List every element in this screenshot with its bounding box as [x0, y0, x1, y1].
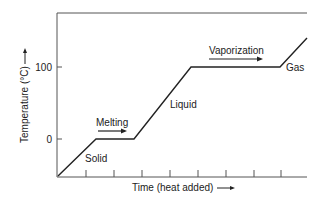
vaporization-arrow-icon	[209, 57, 263, 62]
melting-arrow-icon	[98, 129, 127, 134]
ytick-label-100: 100	[35, 62, 52, 73]
x-axis-label: Time (heat added)	[132, 182, 213, 193]
gas-label: Gas	[286, 62, 304, 73]
liquid-label: Liquid	[170, 99, 197, 110]
x-ticks	[86, 170, 281, 177]
y-axis-arrow-icon	[23, 48, 27, 64]
solid-label: Solid	[85, 153, 107, 164]
y-axis-label: Temperature (°C)	[19, 66, 30, 143]
x-axis-arrow-icon	[217, 186, 235, 190]
melting-label: Melting	[96, 117, 128, 128]
heating-curve-chart: 100 0 Solid Melting Liquid Vaporization …	[0, 0, 321, 205]
vaporization-label: Vaporization	[209, 45, 264, 56]
ytick-label-0: 0	[46, 134, 52, 145]
